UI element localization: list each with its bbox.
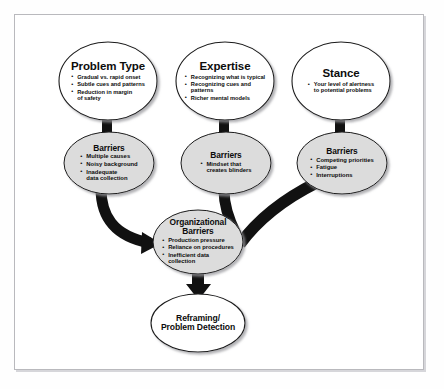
list-item: Gradual vs. rapid onset <box>71 74 145 80</box>
node-barriers-right: Barriers Competing priorities Fatigue In… <box>299 133 385 193</box>
diagram-canvas: Problem Type Gradual vs. rapid onset Sub… <box>0 0 444 389</box>
node-barriers-left-bullets: Multiple causes Noisy background Inadequ… <box>80 153 137 182</box>
list-item: Your level of alertnessto potential prob… <box>308 81 374 93</box>
list-item: Mindset thatcreates blinders <box>200 161 251 174</box>
node-reframing-title: Reframing/ Problem Detection <box>161 314 235 332</box>
node-barriers-left: Barriers Multiple causes Noisy backgroun… <box>66 133 152 193</box>
list-item: Richer mental models <box>185 95 265 101</box>
list-item: Recognizing cues andpatterns <box>185 81 265 93</box>
list-item: Subtle cues and patterns <box>71 81 145 87</box>
node-barriers-mid-title: Barriers <box>210 151 241 160</box>
list-item: Interruptions <box>310 172 374 178</box>
node-stance-title: Stance <box>322 67 359 79</box>
list-item: Reduction in marginof safety <box>71 89 145 101</box>
node-barriers-right-title: Barriers <box>326 147 357 156</box>
list-item: Noisy background <box>80 161 137 167</box>
list-item: Competing priorities <box>310 157 374 163</box>
list-item: Reliance on procedures <box>162 244 234 250</box>
node-problem-type: Problem Type Gradual vs. rapid onset Sub… <box>60 42 156 120</box>
node-problem-type-bullets: Gradual vs. rapid onset Subtle cues and … <box>71 74 145 102</box>
node-organizational-barriers-bullets: Production pressure Reliance on procedur… <box>162 237 234 266</box>
list-item: Inefficient datacollection <box>162 252 234 265</box>
list-item: Recognizing what is typical <box>185 74 265 80</box>
node-organizational-barriers-title: Organizational Barriers <box>170 218 227 236</box>
node-barriers-left-title: Barriers <box>93 144 124 153</box>
node-organizational-barriers: Organizational Barriers Production press… <box>155 211 241 273</box>
node-expertise-title: Expertise <box>200 60 251 72</box>
node-barriers-right-bullets: Competing priorities Fatigue Interruptio… <box>310 157 374 180</box>
node-problem-type-title: Problem Type <box>71 60 145 72</box>
node-expertise-bullets: Recognizing what is typical Recognizing … <box>185 74 265 102</box>
list-item: Production pressure <box>162 237 234 243</box>
node-barriers-mid: Barriers Mindset thatcreates blinders <box>183 133 269 193</box>
node-stance-bullets: Your level of alertnessto potential prob… <box>308 81 374 95</box>
node-barriers-mid-bullets: Mindset thatcreates blinders <box>200 161 251 175</box>
list-item: Multiple causes <box>80 153 137 159</box>
list-item: Fatigue <box>310 164 374 170</box>
node-reframing: Reframing/ Problem Detection <box>152 295 244 351</box>
node-expertise: Expertise Recognizing what is typical Re… <box>177 42 273 120</box>
node-stance: Stance Your level of alertnessto potenti… <box>293 42 389 120</box>
list-item: Inadequatedata collection <box>80 169 137 182</box>
